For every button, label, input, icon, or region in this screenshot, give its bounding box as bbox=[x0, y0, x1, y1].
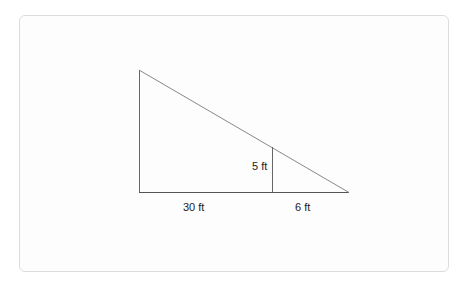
label-30ft: 30 ft bbox=[183, 201, 204, 213]
triangle-diagram bbox=[0, 0, 465, 286]
label-6ft: 6 ft bbox=[295, 201, 310, 213]
label-5ft: 5 ft bbox=[252, 160, 267, 172]
hypotenuse bbox=[139, 70, 349, 193]
